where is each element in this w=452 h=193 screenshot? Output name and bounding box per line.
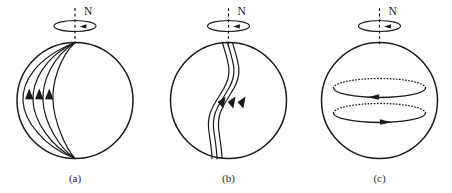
- sphere-outline-b: [171, 43, 287, 159]
- lower-loop-front-edge: [334, 113, 426, 123]
- panel-c: N (c): [322, 5, 438, 185]
- north-pole-label-b: N: [238, 5, 247, 17]
- field-arrowhead-a-2: [35, 89, 44, 100]
- field-line-a-2: [33, 43, 75, 159]
- panel-a: N (a): [17, 5, 133, 185]
- lower-toroidal-loop: [334, 104, 426, 125]
- figure-container: N (a) N: [0, 0, 452, 193]
- north-pole-label-c: N: [389, 5, 398, 17]
- rotation-arrowhead-b: [233, 24, 240, 28]
- panel-label-a: (a): [69, 172, 82, 185]
- field-line-a-3: [43, 43, 75, 159]
- field-arrowhead-b-3: [238, 97, 246, 109]
- sphere-outline-a: [17, 43, 133, 159]
- rotation-arrowhead-c: [384, 24, 391, 28]
- sphere-outline-c: [322, 43, 438, 159]
- panel-label-b: (b): [222, 172, 235, 185]
- rotation-arrowhead-a: [80, 24, 87, 28]
- field-arrowhead-a-3: [45, 89, 54, 100]
- upper-toroidal-loop: [334, 79, 426, 100]
- upper-loop-front-edge: [334, 88, 426, 98]
- field-line-a-1: [23, 43, 75, 159]
- panel-b: N (b): [171, 5, 287, 185]
- upper-loop-arrowhead: [368, 94, 380, 100]
- upper-loop-back-edge: [334, 79, 426, 89]
- field-arrowhead-a-1: [25, 89, 33, 100]
- field-arrowhead-b-2: [228, 97, 236, 109]
- north-pole-label-a: N: [84, 5, 93, 17]
- lower-loop-back-edge: [334, 104, 426, 114]
- panel-label-c: (c): [373, 172, 386, 185]
- field-arrowhead-b-1: [218, 97, 226, 109]
- lower-loop-arrowhead: [380, 119, 392, 125]
- solar-dynamo-diagram: N (a) N: [0, 0, 452, 193]
